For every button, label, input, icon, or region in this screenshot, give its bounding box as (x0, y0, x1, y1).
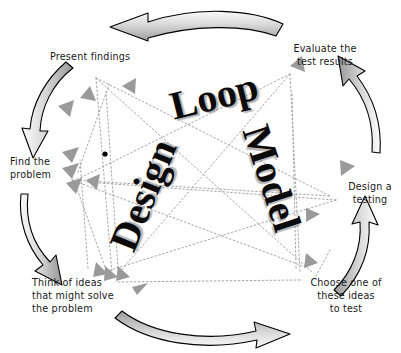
connector-head (58, 100, 74, 117)
arrow-bottom (115, 311, 290, 348)
center-dot (102, 151, 107, 156)
connector-web (72, 74, 336, 282)
connector-line (86, 182, 336, 200)
connector-line (72, 180, 330, 196)
connector-head (104, 266, 118, 281)
arrow-lower-left (20, 194, 62, 285)
connector-head (66, 178, 82, 194)
design-loop-model-diagram: Design Loop Model Present findings Evalu… (0, 0, 401, 353)
connector-line (104, 200, 336, 272)
connector-line (106, 92, 118, 268)
connector-line (316, 250, 330, 276)
connector-line (72, 180, 308, 268)
connector-line (116, 280, 300, 282)
connector-head (62, 163, 79, 179)
arrow-top (110, 11, 283, 41)
connector-head (304, 253, 318, 268)
connector-head (306, 208, 320, 222)
connector-line (96, 78, 312, 272)
arrow-lower-right (334, 196, 378, 296)
connector-line (118, 74, 290, 274)
connector-line (76, 186, 106, 270)
connector-head (122, 78, 136, 94)
connector-head (80, 86, 96, 101)
connector-arrowheads (58, 56, 355, 295)
connector-head (62, 147, 79, 163)
diagram-canvas (0, 0, 401, 353)
connector-head (132, 283, 148, 295)
connector-head (290, 56, 305, 72)
connector-line (292, 92, 296, 268)
connector-head (340, 160, 355, 176)
arrow-upper-right (338, 56, 380, 153)
